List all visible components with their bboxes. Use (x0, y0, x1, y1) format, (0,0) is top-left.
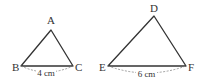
triangle-abc: A B C 4 cm (12, 14, 82, 78)
vertex-label-c: C (75, 61, 82, 73)
vertex-label-e: E (99, 61, 106, 73)
vertex-label-d: D (150, 2, 158, 14)
base-bc-length: 4 cm (37, 68, 55, 78)
triangle-abc-outline (21, 30, 73, 66)
vertex-label-f: F (188, 61, 194, 73)
base-ef-length: 6 cm (138, 69, 156, 79)
vertex-label-b: B (12, 61, 19, 73)
triangle-def: D E F 6 cm (99, 2, 194, 79)
diagram-canvas: A B C 4 cm D E F 6 cm (0, 0, 206, 82)
triangle-def-outline (108, 16, 186, 66)
vertex-label-a: A (47, 14, 55, 26)
